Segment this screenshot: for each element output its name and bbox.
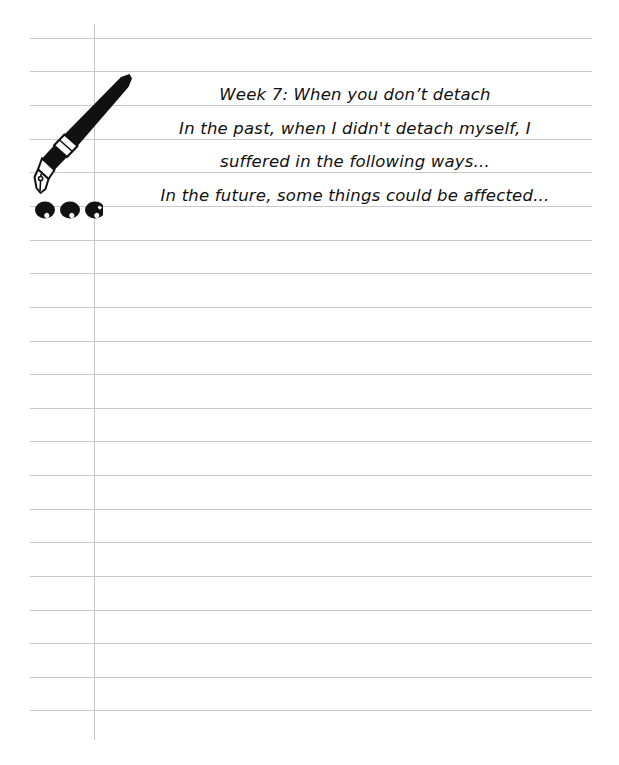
rule-line: [30, 273, 592, 274]
rule-line: [30, 643, 592, 644]
note-line-2: In the past, when I didn't detach myself…: [120, 112, 590, 146]
note-line-title: Week 7: When you don’t detach: [120, 78, 590, 112]
rule-line: [30, 576, 592, 577]
rule-line: [30, 38, 592, 39]
note-line-3: suffered in the following ways...: [120, 145, 590, 179]
rule-line: [30, 542, 592, 543]
rule-line: [30, 610, 592, 611]
rule-line: [30, 710, 592, 711]
rule-line: [30, 475, 592, 476]
note-line-4: In the future, some things could be affe…: [120, 179, 590, 213]
rule-line: [30, 240, 592, 241]
ink-blots: [33, 198, 103, 220]
rule-line: [30, 307, 592, 308]
notebook-page: Week 7: When you don’t detach In the pas…: [0, 0, 619, 765]
rule-line: [30, 441, 592, 442]
rule-line: [30, 408, 592, 409]
handwritten-note: Week 7: When you don’t detach In the pas…: [120, 78, 590, 212]
rule-line: [30, 374, 592, 375]
rule-line: [30, 341, 592, 342]
rule-line: [30, 677, 592, 678]
rule-line: [30, 509, 592, 510]
